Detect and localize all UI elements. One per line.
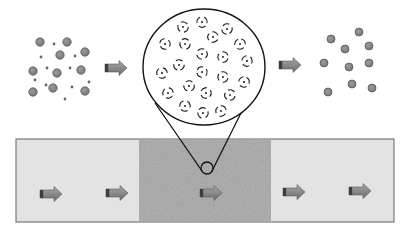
particle: [365, 42, 373, 50]
arrow-icon: [279, 58, 301, 73]
large-particle: [81, 48, 89, 56]
large-particle: [53, 69, 61, 77]
arrow-tail: [283, 188, 286, 196]
arrow-tail: [349, 187, 352, 195]
particle: [320, 59, 328, 67]
particle: [341, 45, 349, 53]
particle: [348, 80, 356, 88]
particle: [327, 35, 335, 43]
arrow-icon: [105, 61, 127, 76]
small-particle: [64, 98, 67, 101]
large-particle: [63, 38, 71, 46]
small-particle: [45, 84, 48, 87]
dispersed-particles-right: [320, 28, 376, 96]
process-arrow-icon: [105, 61, 127, 76]
particle: [355, 28, 363, 36]
ion-core: [182, 26, 184, 28]
particle: [345, 63, 353, 71]
large-particle: [29, 67, 37, 75]
porous-medium-texture: [139, 140, 271, 221]
large-particle: [56, 51, 64, 59]
arrow-tail: [200, 189, 203, 197]
small-particle: [74, 55, 77, 58]
large-particle: [29, 88, 37, 96]
particle: [368, 84, 376, 92]
particle: [324, 88, 332, 96]
small-particle: [40, 56, 43, 59]
small-particle: [53, 43, 56, 46]
diagram-canvas: [0, 0, 407, 233]
large-particle: [77, 66, 85, 74]
dispersed-particles-left: [29, 38, 91, 101]
large-particle: [81, 87, 89, 95]
arrow-tail: [279, 61, 282, 69]
small-particle: [46, 67, 49, 70]
flow-channel: [16, 139, 394, 222]
small-particle: [69, 67, 72, 70]
particle: [365, 59, 373, 67]
arrow-tail: [106, 189, 109, 197]
large-particle: [36, 38, 44, 46]
arrow-tail: [40, 190, 43, 198]
process-arrow-icon: [279, 58, 301, 73]
small-particle: [34, 79, 37, 82]
small-particle: [88, 81, 91, 84]
large-particle: [49, 84, 57, 92]
small-particle: [71, 86, 74, 89]
arrow-tail: [105, 64, 108, 72]
